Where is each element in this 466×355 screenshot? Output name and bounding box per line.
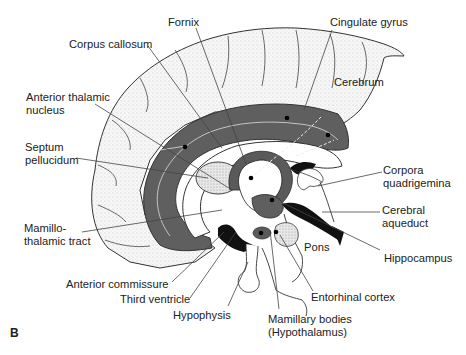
- label-line: pellucidum: [25, 154, 78, 167]
- label-line: Septum: [25, 141, 78, 154]
- label-entorhinal-cortex: Entorhinal cortex: [311, 291, 395, 304]
- label-line: aqueduct: [382, 217, 428, 230]
- label-hypophysis: Hypophysis: [173, 309, 231, 322]
- label-cingulate-gyrus: Cingulate gyrus: [330, 16, 408, 29]
- label-line: Cerebral: [382, 204, 428, 217]
- label-mamillothalamic-tract: Mamillo- thalamic tract: [24, 222, 91, 248]
- label-line: quadrigemina: [383, 177, 451, 190]
- label-anterior-commissure: Anterior commissure: [66, 278, 169, 291]
- label-third-ventricle: Third ventricle: [120, 293, 190, 306]
- label-septum-pellucidum: Septum pellucidum: [25, 141, 78, 167]
- panel-letter: B: [10, 326, 19, 340]
- label-line: thalamic tract: [24, 235, 91, 248]
- brain-diagram: Fornix Cingulate gyrus Corpus callosum C…: [0, 0, 466, 355]
- label-pons: Pons: [304, 241, 330, 254]
- entorhinal-shape: [274, 223, 298, 247]
- label-cerebral-aqueduct: Cerebral aqueduct: [382, 204, 428, 230]
- label-line: (Hypothalamus): [268, 326, 352, 339]
- label-corpora-quadrigemina: Corpora quadrigemina: [383, 164, 451, 190]
- label-mamillary-bodies: Mamillary bodies (Hypothalamus): [268, 313, 352, 339]
- label-line: nucleus: [26, 104, 110, 117]
- label-cerebrum: Cerebrum: [334, 76, 384, 89]
- label-fornix: Fornix: [168, 16, 199, 29]
- label-line: Corpora: [383, 164, 451, 177]
- hippocampus-shape: [252, 195, 283, 218]
- label-line: Mamillary bodies: [268, 313, 352, 326]
- label-hippocampus: Hippocampus: [384, 252, 452, 265]
- label-corpus-callosum: Corpus callosum: [69, 38, 152, 51]
- label-anterior-thalamic-nucleus: Anterior thalamic nucleus: [26, 91, 110, 117]
- label-line: Anterior thalamic: [26, 91, 110, 104]
- label-line: Mamillo-: [24, 222, 91, 235]
